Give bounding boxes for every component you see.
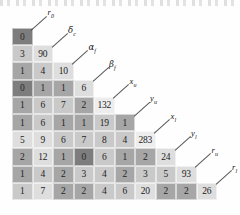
variable-label-yl: yl bbox=[191, 128, 196, 140]
matrix-cell: 7 bbox=[74, 131, 95, 148]
variable-label-yu: yu bbox=[150, 93, 157, 105]
matrix-cell: 24 bbox=[156, 148, 177, 165]
matrix-cell: 2 bbox=[115, 166, 136, 183]
matrix-cell: 1 bbox=[12, 114, 33, 131]
matrix-row: 0 bbox=[12, 28, 217, 45]
matrix-cell: 8 bbox=[94, 131, 115, 148]
matrix-cell: 1 bbox=[53, 114, 74, 131]
matrix-cell: 6 bbox=[53, 131, 74, 148]
matrix-cell: 3 bbox=[12, 45, 33, 62]
matrix-cell: 2 bbox=[53, 183, 74, 200]
variable-label-af: αf bbox=[89, 42, 96, 54]
matrix-cell: 2 bbox=[53, 166, 74, 183]
matrix-cell: 7 bbox=[53, 97, 74, 114]
matrix-cell: 0 bbox=[74, 148, 95, 165]
matrix-row: 2121061224 bbox=[12, 148, 217, 165]
matrix-cell: 6 bbox=[33, 97, 54, 114]
matrix-row: 1611191 bbox=[12, 114, 217, 131]
matrix-cell: 2 bbox=[74, 183, 95, 200]
matrix-cell: 1 bbox=[53, 148, 74, 165]
matrix-cell: 1 bbox=[12, 166, 33, 183]
variable-label-ru: ru bbox=[212, 145, 218, 157]
matrix-cell: 7 bbox=[33, 183, 54, 200]
matrix-cell: 283 bbox=[135, 131, 156, 148]
matrix-cell: 4 bbox=[94, 166, 115, 183]
matrix-cell: 1 bbox=[115, 114, 136, 131]
matrix-cell: 9 bbox=[33, 131, 54, 148]
matrix-cell: 20 bbox=[135, 183, 156, 200]
matrix-cell: 6 bbox=[115, 183, 136, 200]
matrix-row: 0116 bbox=[12, 80, 217, 97]
variable-label-rl: rl bbox=[232, 162, 237, 174]
matrix-cell: 2 bbox=[12, 148, 33, 165]
variable-label-subscript: c bbox=[73, 30, 76, 36]
matrix-cell: 5 bbox=[12, 131, 33, 148]
matrix-row: 172246202226 bbox=[12, 183, 217, 200]
variable-label-subscript: u bbox=[154, 99, 157, 105]
variable-label-subscript: l bbox=[174, 116, 176, 122]
variable-label-subscript: u bbox=[133, 82, 136, 88]
matrix-cell: 90 bbox=[33, 45, 54, 62]
matrix-row: 1672132 bbox=[12, 97, 217, 114]
matrix-cell: 6 bbox=[33, 114, 54, 131]
variable-label-xu: xu bbox=[130, 76, 137, 88]
matrix-cell: 10 bbox=[53, 62, 74, 79]
leader-line bbox=[215, 170, 231, 185]
scan-artifact-bar bbox=[0, 0, 240, 6]
variable-label-subscript: f bbox=[114, 65, 116, 71]
variable-label-r0: r0 bbox=[48, 7, 54, 19]
matrix-cell: 6 bbox=[74, 80, 95, 97]
matrix-cell: 26 bbox=[197, 183, 218, 200]
matrix-row: 1423423593 bbox=[12, 166, 217, 183]
matrix-cell: 1 bbox=[12, 62, 33, 79]
matrix-cell: 5 bbox=[156, 166, 177, 183]
matrix-cell: 2 bbox=[156, 183, 177, 200]
matrix-cell: 2 bbox=[176, 183, 197, 200]
matrix-cell: 0 bbox=[12, 28, 33, 45]
matrix-cell: 0 bbox=[12, 80, 33, 97]
matrix-cell: 1 bbox=[53, 80, 74, 97]
correlation-matrix: 0390141001161672132161119159678428321210… bbox=[12, 28, 217, 200]
variable-label-bf: βf bbox=[109, 59, 116, 71]
matrix-cell: 2 bbox=[74, 97, 95, 114]
matrix-cell: 1 bbox=[74, 114, 95, 131]
matrix-cell: 3 bbox=[74, 166, 95, 183]
matrix-cell: 2 bbox=[135, 148, 156, 165]
matrix-cell: 12 bbox=[33, 148, 54, 165]
matrix-cell: 19 bbox=[94, 114, 115, 131]
matrix-cell: 3 bbox=[135, 166, 156, 183]
variable-label-subscript: l bbox=[235, 168, 237, 174]
variable-label-subscript: u bbox=[215, 151, 218, 157]
variable-label-dc: δc bbox=[68, 25, 76, 37]
matrix-cell: 4 bbox=[33, 166, 54, 183]
matrix-cell: 4 bbox=[33, 62, 54, 79]
matrix-cell: 6 bbox=[94, 148, 115, 165]
variable-label-xl: xl bbox=[171, 111, 176, 123]
matrix-cell: 93 bbox=[176, 166, 197, 183]
matrix-cell: 4 bbox=[115, 131, 136, 148]
variable-label-subscript: l bbox=[195, 134, 197, 140]
matrix-cell: 1 bbox=[33, 80, 54, 97]
matrix-cell: 1 bbox=[12, 97, 33, 114]
matrix-cell: 132 bbox=[94, 97, 115, 114]
figure-canvas: 0390141001161672132161119159678428321210… bbox=[0, 0, 240, 215]
matrix-cell: 4 bbox=[94, 183, 115, 200]
variable-label-subscript: f bbox=[94, 48, 96, 54]
variable-label-subscript: 0 bbox=[51, 13, 54, 19]
matrix-cell: 1 bbox=[12, 183, 33, 200]
matrix-cell: 1 bbox=[115, 148, 136, 165]
